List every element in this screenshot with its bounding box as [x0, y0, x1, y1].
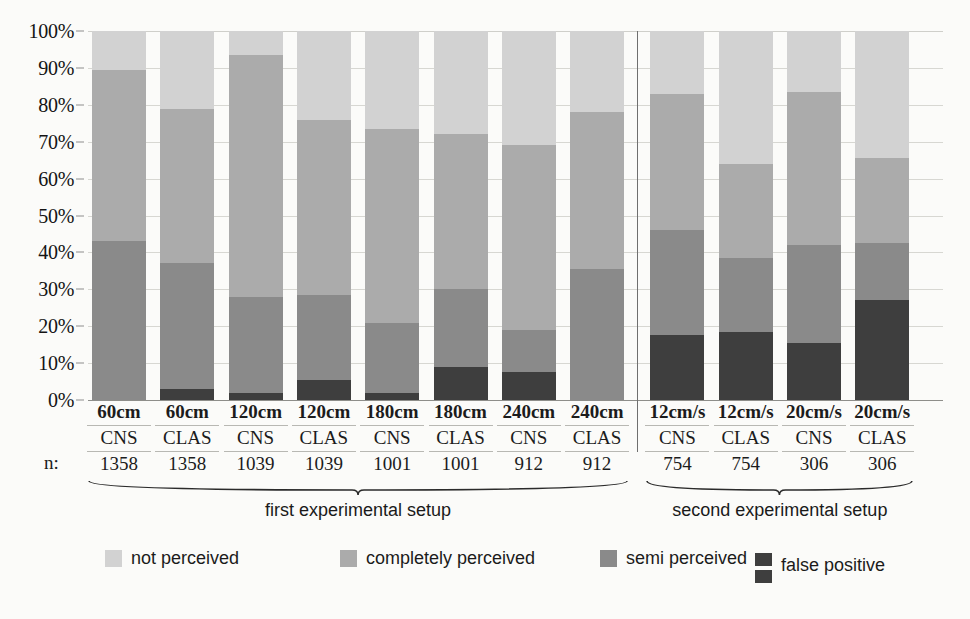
- chart-legend: not perceivedcompletely perceivedsemi pe…: [0, 548, 970, 588]
- y-axis-tick-mark: [76, 31, 84, 32]
- bar-segment-completely-perceived: [92, 70, 146, 242]
- legend-label: not perceived: [131, 548, 239, 569]
- bar-column: [570, 31, 624, 400]
- x-axis-n-value: 1001: [429, 452, 493, 476]
- bar-segment-completely-perceived: [365, 129, 419, 323]
- bar-segment-semi-perceived: [160, 263, 214, 388]
- bar-segment-not-perceived: [570, 31, 624, 112]
- x-axis-method-label: CLAS: [565, 426, 629, 452]
- x-axis-condition-label: 120cm: [292, 400, 356, 426]
- legend-label: semi perceived: [626, 548, 747, 569]
- y-axis-tick-label: 100%: [29, 20, 74, 43]
- x-axis-column: 180cmCNS1001: [360, 400, 424, 476]
- bar-column: [229, 31, 283, 400]
- bar-segment-not-perceived: [229, 31, 283, 55]
- legend-item[interactable]: completely perceived: [340, 548, 535, 569]
- group-label: second experimental setup: [645, 500, 914, 521]
- x-axis-condition-label: 60cm: [87, 400, 151, 426]
- x-axis-condition-label: 120cm: [224, 400, 288, 426]
- bar-segment-false-positive: [229, 393, 283, 400]
- x-axis-column: 20cm/sCNS306: [782, 400, 846, 476]
- bar-segment-completely-perceived: [297, 120, 351, 295]
- x-axis-column: 12cm/sCNS754: [645, 400, 709, 476]
- bar-segment-false-positive: [160, 389, 214, 400]
- bar-segment-not-perceived: [787, 31, 841, 92]
- x-axis-condition-label: 240cm: [497, 400, 561, 426]
- bar-segment-completely-perceived: [719, 164, 773, 258]
- x-axis-n-value: 754: [645, 452, 709, 476]
- legend-item[interactable]: semi perceived: [600, 548, 747, 569]
- bar-segment-not-perceived: [160, 31, 214, 108]
- x-axis-condition-label: 20cm/s: [850, 400, 914, 426]
- bar-segment-false-positive: [365, 393, 419, 400]
- x-axis-method-label: CNS: [782, 426, 846, 452]
- bar-segment-semi-perceived: [570, 269, 624, 400]
- bar-segment-false-positive: [502, 372, 556, 400]
- x-axis-n-value: 912: [565, 452, 629, 476]
- x-axis-method-label: CLAS: [292, 426, 356, 452]
- bar-segment-completely-perceived: [434, 134, 488, 289]
- y-axis-tick-mark: [76, 252, 84, 253]
- y-axis-tick-label: 30%: [38, 278, 74, 301]
- bar-segment-not-perceived: [650, 31, 704, 94]
- legend-swatch: [340, 550, 357, 567]
- y-axis-tick-label: 60%: [38, 167, 74, 190]
- x-axis-n-value: 1039: [292, 452, 356, 476]
- bar-segment-completely-perceived: [502, 145, 556, 330]
- legend-swatch: [105, 550, 122, 567]
- bar-segment-completely-perceived: [570, 112, 624, 269]
- stacked-bar-chart: 0%10%20%30%40%50%60%70%80%90%100% n: 60c…: [0, 0, 970, 619]
- bar-segment-completely-perceived: [650, 94, 704, 231]
- bar-column: [855, 31, 909, 400]
- setup-divider: [637, 31, 638, 400]
- bar-segment-semi-perceived: [855, 243, 909, 300]
- group-brace: [645, 480, 914, 494]
- x-axis-condition-label: 180cm: [429, 400, 493, 426]
- x-axis-column: 120cmCNS1039: [224, 400, 288, 476]
- bar-segment-semi-perceived: [229, 297, 283, 393]
- x-axis-method-label: CLAS: [714, 426, 778, 452]
- y-axis-tick-label: 90%: [38, 56, 74, 79]
- bar-segment-semi-perceived: [719, 258, 773, 332]
- y-axis-tick-label: 50%: [38, 204, 74, 227]
- y-axis-tick-mark: [76, 141, 84, 142]
- x-axis-column: 120cmCLAS1039: [292, 400, 356, 476]
- x-axis-n-value: 1358: [87, 452, 151, 476]
- bar-segment-semi-perceived: [502, 330, 556, 372]
- bar-segment-completely-perceived: [160, 109, 214, 264]
- y-axis-tick-mark: [76, 67, 84, 68]
- x-axis-condition-label: 240cm: [565, 400, 629, 426]
- bar-column: [719, 31, 773, 400]
- bar-segment-not-perceived: [434, 31, 488, 134]
- x-axis-method-label: CNS: [87, 426, 151, 452]
- x-axis-condition-label: 60cm: [155, 400, 219, 426]
- bar-segment-not-perceived: [502, 31, 556, 145]
- legend-item[interactable]: false positive: [755, 548, 885, 583]
- bar-segment-false-positive: [787, 343, 841, 400]
- x-axis-n-value: 754: [714, 452, 778, 476]
- y-axis-tick-mark: [76, 363, 84, 364]
- bar-segment-semi-perceived: [787, 245, 841, 343]
- x-axis-n-value: 1358: [155, 452, 219, 476]
- bar-column: [650, 31, 704, 400]
- y-axis-tick-label: 40%: [38, 241, 74, 264]
- legend-item[interactable]: not perceived: [105, 548, 239, 569]
- bar-segment-not-perceived: [297, 31, 351, 120]
- legend-swatch: [600, 550, 617, 567]
- x-axis-column: 20cm/sCLAS306: [850, 400, 914, 476]
- x-axis-column: 240cmCLAS912: [565, 400, 629, 476]
- x-axis-n-value: 1001: [360, 452, 424, 476]
- x-axis-condition-label: 180cm: [360, 400, 424, 426]
- x-axis-condition-label: 12cm/s: [714, 400, 778, 426]
- x-axis-column: 240cmCNS912: [497, 400, 561, 476]
- bar-segment-completely-perceived: [229, 55, 283, 297]
- y-axis-tick-label: 70%: [38, 130, 74, 153]
- bar-segment-semi-perceived: [434, 289, 488, 366]
- x-axis-column: 60cmCLAS1358: [155, 400, 219, 476]
- x-axis-method-label: CNS: [360, 426, 424, 452]
- y-axis-tick-mark: [76, 289, 84, 290]
- plot-area: [88, 31, 943, 400]
- y-axis-tick-mark: [76, 178, 84, 179]
- x-axis-method-label: CLAS: [155, 426, 219, 452]
- y-axis-tick-label: 0%: [48, 389, 74, 412]
